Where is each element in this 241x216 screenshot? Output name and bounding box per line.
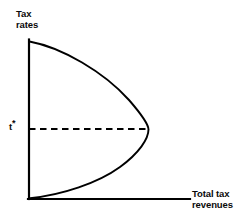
y-axis-title-line2: rates — [16, 19, 38, 30]
optimum-rate-tick-star: * — [12, 118, 15, 128]
y-axis-title-line1: Tax — [16, 8, 31, 19]
x-axis-title-line1: Total tax — [192, 188, 229, 199]
x-axis-title: Total taxrevenues — [192, 189, 233, 210]
laffer-curve-path — [30, 42, 149, 199]
chart-canvas — [0, 0, 241, 216]
optimum-rate-tick-label: t* — [9, 122, 15, 132]
x-axis-title-line2: revenues — [192, 199, 233, 210]
laffer-curve-figure: Taxrates Total taxrevenues t* — [0, 0, 241, 216]
y-axis-title: Taxrates — [16, 9, 38, 30]
